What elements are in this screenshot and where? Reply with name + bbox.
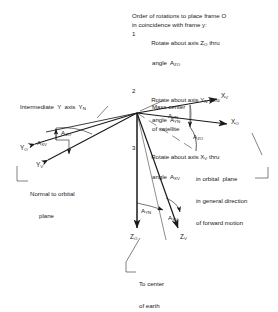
step-1-angle-text: angle A — [152, 59, 174, 66]
leader-earth — [126, 238, 140, 272]
step-1-angle-line: angle AZO — [141, 58, 278, 68]
angle-AYN-upper-sub: YN — [172, 115, 178, 120]
axis-YN — [46, 113, 137, 132]
angle-AYN-lower-sub: YN — [145, 210, 151, 215]
leader-normal — [17, 166, 28, 181]
step-3-text: Rotate about axis X — [151, 153, 204, 160]
intermediate-axis-text: Intermediate Y axis Y — [20, 103, 83, 110]
axis-label-ZV: ZV — [180, 233, 187, 241]
angle-AZO-left-sub: ZO — [65, 132, 71, 137]
axis-label-XV: XV — [221, 92, 228, 100]
step-3-number: 3 — [132, 143, 135, 152]
axis-label-ZO-sub: O — [134, 236, 137, 241]
angle-AXV-lower-sub: XV — [172, 217, 178, 222]
order-step-1: 1Rotate about axis ZO thru angle AZO — [132, 29, 278, 86]
earth-line2: of earth — [139, 302, 164, 309]
order-header-line1: Order of rotations to place frame O — [132, 11, 278, 20]
angle-label-AZO-right: AZO — [193, 133, 203, 141]
angle-label-AZO-left: AZO — [61, 129, 71, 137]
axis-label-YO: YO — [20, 144, 28, 152]
step-3-angle-text: angle A — [152, 173, 174, 180]
axis-label-ZV-sub: V — [184, 236, 187, 241]
earth-line1: To center — [139, 280, 164, 287]
angle-label-AYN-upper: AYN — [168, 112, 178, 120]
order-header-line2: in coincidence with frame y: — [132, 20, 278, 29]
angle-label-AYN-lower: AYN — [141, 207, 151, 215]
step-1-angle-sub: ZO — [174, 61, 180, 66]
leader-intermediate — [97, 106, 108, 118]
orbital-line1: in orbital plane — [196, 175, 248, 182]
axis-label-ZO: ZO — [130, 233, 137, 241]
intermediate-axis-callout: Intermediate Y axis YN — [20, 103, 86, 111]
axis-label-YV: YV — [36, 161, 43, 169]
axis-label-XV-sub: V — [225, 95, 228, 100]
step-3-angle-sub: XV — [174, 175, 180, 180]
normal-line1: Normal to orbital — [30, 190, 75, 197]
step-2-text-post: thru — [207, 96, 219, 103]
mass-center-line2: of satellite — [152, 125, 185, 132]
step-2-number: 2 — [132, 86, 135, 95]
normal-to-orbital-plane-callout: Normal to orbital plane — [30, 176, 75, 226]
axis-label-YV-sub: V — [40, 164, 43, 169]
axis-label-XO: XO — [231, 118, 239, 126]
step-1-number: 1 — [132, 29, 135, 38]
intermediate-axis-sub: N — [83, 106, 86, 111]
axis-label-YO-sub: O — [24, 147, 27, 152]
angle-label-AXV-left: AXV — [37, 139, 47, 147]
angle-AZO-right-sub: ZO — [197, 136, 203, 141]
normal-line2: plane — [30, 212, 75, 219]
axis-label-XO-sub: O — [235, 121, 238, 126]
step-1-text-post: thru — [207, 39, 219, 46]
to-center-of-earth-callout: To center of earth — [139, 266, 164, 312]
angle-label-AXV-lower: AXV — [168, 214, 178, 222]
step-1-text: Rotate about axis Z — [151, 39, 204, 46]
orbital-line3: of forward motion — [196, 219, 248, 226]
mass-center-line1: Mass center — [152, 103, 185, 110]
orbital-line2: in general direction — [196, 197, 248, 204]
step-3-text-post: thru — [207, 153, 219, 160]
orbital-plane-callout: in orbital plane in general direction of… — [196, 161, 248, 233]
angle-AXV-left-sub: XV — [41, 142, 47, 147]
